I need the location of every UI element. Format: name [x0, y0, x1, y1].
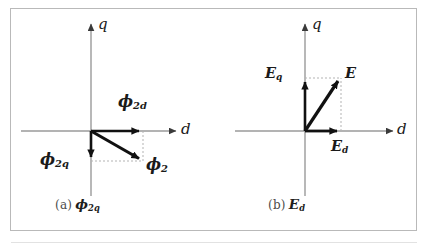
figure-underline [11, 242, 417, 243]
phi-2q-subscript: 2q [55, 158, 69, 169]
caption-a-index: (a) [55, 198, 72, 212]
figure-root: q d ϕ2d ϕ2q ϕ2 [0, 0, 430, 252]
vector-label-e-q: Eq [265, 66, 282, 82]
phi-2q-symbol: ϕ [40, 150, 55, 169]
caption-b-symbol-sub: d [299, 203, 305, 213]
panel-b-graphics [203, 0, 430, 223]
caption-a-symbol: ϕ2q [72, 196, 100, 212]
vector-label-phi-2q: ϕ2q [40, 152, 69, 169]
caption-panel-a: (a)ϕ2q [55, 196, 100, 213]
e-q-subscript: q [276, 72, 282, 82]
phi-2-subscript: 2 [161, 163, 168, 174]
caption-b-index: (b) [268, 198, 286, 212]
d-axis-label: d [397, 122, 407, 137]
panel-a-graphics [0, 0, 203, 223]
vector-e [305, 81, 338, 131]
panel-b: q d Eq E Ed [203, 0, 406, 223]
caption-panel-b: (b)Ed [268, 196, 305, 213]
e-d-symbol: E [331, 137, 342, 154]
d-axis-label: d [181, 122, 191, 137]
vector-label-phi-2: ϕ2 [146, 157, 168, 174]
vector-label-e: E [345, 66, 356, 82]
q-axis-label: q [312, 17, 322, 32]
q-axis-label: q [98, 17, 108, 32]
e-symbol: E [345, 64, 356, 81]
e-d-subscript: d [342, 145, 348, 155]
caption-a-symbol-base: ϕ [75, 196, 88, 212]
vector-label-phi-2d: ϕ2d [118, 94, 147, 111]
phi-2-symbol: ϕ [146, 155, 161, 174]
vector-label-e-d: Ed [331, 139, 348, 155]
caption-b-symbol-base: E [289, 196, 300, 212]
e-q-symbol: E [265, 64, 276, 81]
caption-b-symbol: Ed [286, 196, 306, 212]
phi-2d-symbol: ϕ [118, 92, 133, 111]
caption-a-symbol-sub: 2q [88, 203, 100, 213]
panel-a: q d ϕ2d ϕ2q ϕ2 [0, 0, 203, 223]
phi-2d-subscript: 2d [133, 100, 147, 111]
vector-phi-2 [91, 131, 139, 159]
